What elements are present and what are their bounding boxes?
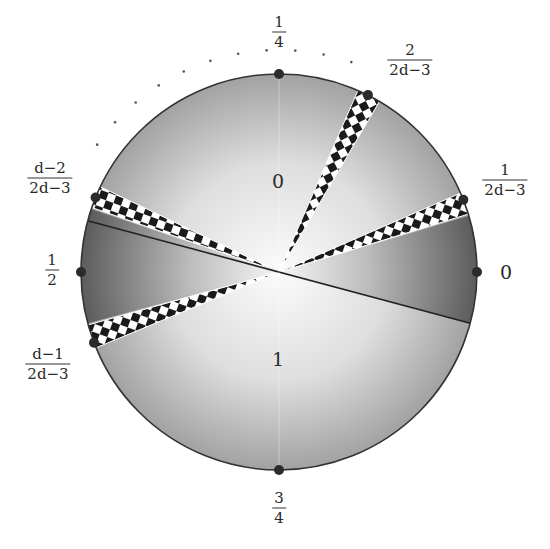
label-p34: 34	[272, 491, 286, 526]
arc-dot	[350, 61, 353, 64]
label-numerator: 3	[272, 491, 286, 508]
circle-diagram	[0, 0, 550, 549]
arc-dot	[157, 84, 160, 87]
boundary-dot-pd2	[91, 193, 101, 203]
label-denominator: 2d−3	[387, 60, 432, 78]
boundary-dot-p14	[274, 69, 284, 79]
label-p0: 0	[500, 263, 512, 282]
arc-dot	[209, 60, 212, 63]
arc-dot	[114, 121, 117, 124]
label-denominator: 2d−3	[25, 364, 70, 382]
arc-dot	[237, 52, 240, 55]
label-p12: 12	[45, 253, 59, 288]
region-label-1: 1	[272, 348, 284, 370]
label-p2: 22d−3	[387, 43, 432, 78]
label-numerator: 2	[403, 43, 417, 60]
arc-dot	[182, 70, 185, 73]
boundary-dot-p0	[472, 267, 482, 277]
label-denominator: 2d−3	[482, 180, 527, 198]
label-pd1: d−12d−3	[25, 347, 70, 382]
arc-dot	[265, 49, 268, 52]
arc-dot	[294, 49, 297, 52]
arc-dot	[134, 101, 137, 104]
label-denominator: 2d−3	[27, 178, 72, 196]
label-p14: 14	[272, 15, 286, 50]
label-numerator: 1	[45, 253, 59, 270]
label-denominator: 2	[45, 270, 59, 288]
boundary-dot-p2	[363, 90, 373, 100]
label-p1: 12d−3	[482, 163, 527, 198]
arc-dot	[322, 53, 325, 56]
arc-dot	[96, 143, 99, 146]
region-label-0: 0	[272, 170, 284, 192]
boundary-dot-p34	[274, 465, 284, 475]
label-numerator: 1	[498, 163, 512, 180]
boundary-dot-p1	[458, 195, 468, 205]
label-numerator: d−1	[30, 347, 66, 364]
label-denominator: 4	[272, 32, 286, 50]
label-numerator: 1	[272, 15, 286, 32]
label-numerator: d−2	[32, 161, 68, 178]
boundary-dot-pd1	[89, 338, 99, 348]
label-pd2: d−22d−3	[27, 161, 72, 196]
label-denominator: 4	[272, 508, 286, 526]
boundary-dot-p12	[76, 267, 86, 277]
